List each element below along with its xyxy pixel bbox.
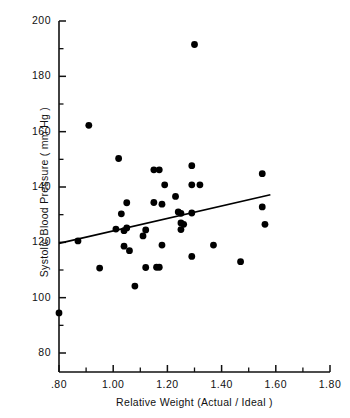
data-point <box>85 122 92 129</box>
data-point <box>159 242 166 249</box>
data-point <box>142 264 149 271</box>
data-point <box>161 181 168 188</box>
trend-line <box>59 195 270 244</box>
data-point <box>188 253 195 260</box>
regression-line <box>59 195 270 244</box>
data-point <box>237 258 244 265</box>
data-point <box>123 199 130 206</box>
data-point <box>123 225 130 232</box>
data-point <box>113 226 120 233</box>
data-point <box>210 242 217 249</box>
y-tick-label: 200 <box>17 14 51 26</box>
data-points <box>56 41 269 316</box>
data-point <box>156 166 163 173</box>
x-axis-title: Relative Weight (Actual / Ideal ) <box>59 396 330 408</box>
data-point <box>159 201 166 208</box>
data-point <box>156 264 163 271</box>
data-point <box>262 221 269 228</box>
data-point <box>178 210 185 217</box>
data-point <box>140 233 147 240</box>
plot-canvas <box>0 0 350 418</box>
axis-ticks <box>59 21 330 372</box>
data-point <box>188 181 195 188</box>
axes <box>59 21 330 372</box>
scatter-plot-figure: 80100120140160180200 .801.001.201.401.60… <box>0 0 350 418</box>
x-tick-label: 1.40 <box>202 378 242 390</box>
x-tick-label: 1.20 <box>147 378 187 390</box>
data-point <box>191 41 198 48</box>
data-point <box>188 210 195 217</box>
y-axis-title: Systolic Blood Pressure ( mm Hg ) <box>38 62 50 322</box>
data-point <box>150 199 157 206</box>
x-tick-label: .80 <box>39 378 79 390</box>
data-point <box>75 238 82 245</box>
data-point <box>197 181 204 188</box>
data-point <box>126 247 133 254</box>
data-point <box>188 162 195 169</box>
data-point <box>56 309 63 316</box>
x-tick-label: 1.00 <box>93 378 133 390</box>
data-point <box>96 265 103 272</box>
data-point <box>118 210 125 217</box>
y-tick-label: 80 <box>17 346 51 358</box>
data-point <box>180 221 187 228</box>
data-point <box>259 170 266 177</box>
data-point <box>131 283 138 290</box>
data-point <box>121 243 128 250</box>
x-tick-label: 1.60 <box>256 378 296 390</box>
data-point <box>115 155 122 162</box>
data-point <box>142 226 149 233</box>
data-point <box>172 193 179 200</box>
x-tick-label: 1.80 <box>310 378 350 390</box>
data-point <box>259 204 266 211</box>
